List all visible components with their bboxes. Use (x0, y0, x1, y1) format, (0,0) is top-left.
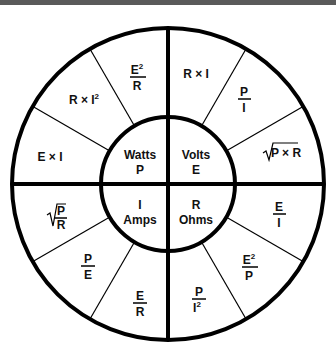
ohms-law-wheel: Watts P Volts E I Amps R Ohms E × I R × … (0, 0, 336, 361)
formula-r-times-i: R × I (183, 67, 209, 81)
ohms-symbol: R (192, 198, 201, 212)
volts-symbol: E (192, 163, 200, 177)
watts-label: Watts (124, 148, 157, 162)
formula-e-times-i: E × I (37, 150, 62, 164)
svg-text:E: E (275, 200, 283, 214)
svg-text:R: R (133, 79, 142, 93)
watts-symbol: P (136, 163, 144, 177)
svg-text:I: I (277, 216, 280, 230)
amps-symbol: I (138, 198, 141, 212)
svg-text:P: P (84, 252, 92, 266)
ohms-label: Ohms (179, 213, 213, 227)
svg-text:P × R: P × R (271, 146, 301, 160)
svg-text:P: P (195, 285, 203, 299)
svg-text:R: R (57, 218, 66, 232)
svg-text:P: P (240, 85, 248, 99)
svg-text:R: R (136, 305, 145, 319)
svg-text:P: P (245, 269, 253, 283)
amps-label: Amps (123, 213, 157, 227)
svg-text:P: P (57, 204, 65, 218)
svg-text:E: E (84, 268, 92, 282)
svg-text:I: I (242, 101, 245, 115)
svg-text:E: E (136, 289, 144, 303)
volts-label: Volts (182, 148, 211, 162)
